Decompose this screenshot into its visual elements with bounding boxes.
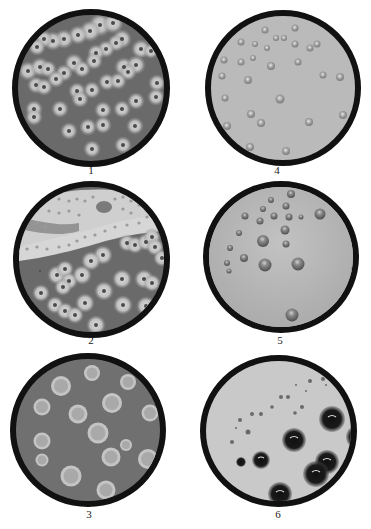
colonies-plate-2 — [19, 187, 164, 332]
figure: 1 4 — [0, 0, 371, 529]
colonies-plate-3 — [16, 359, 160, 501]
plate-label-6: 6 — [268, 508, 288, 520]
petri-dish-4 — [205, 10, 361, 166]
petri-dish-1 — [12, 9, 170, 167]
colonies-plate-4 — [211, 16, 355, 160]
petri-dish-6 — [200, 355, 357, 507]
petri-dish-2 — [13, 181, 170, 338]
plate-label-3: 3 — [79, 508, 99, 520]
colonies-plate-5 — [209, 187, 353, 327]
petri-dish-3 — [10, 353, 166, 507]
plate-label-4: 4 — [267, 164, 287, 176]
plate-label-2: 2 — [81, 334, 101, 346]
colonies-plate-6 — [206, 361, 351, 501]
plate-label-1: 1 — [81, 164, 101, 176]
petri-dish-5 — [203, 181, 359, 333]
plate-label-5: 5 — [270, 334, 290, 346]
colonies-plate-1 — [18, 15, 164, 161]
